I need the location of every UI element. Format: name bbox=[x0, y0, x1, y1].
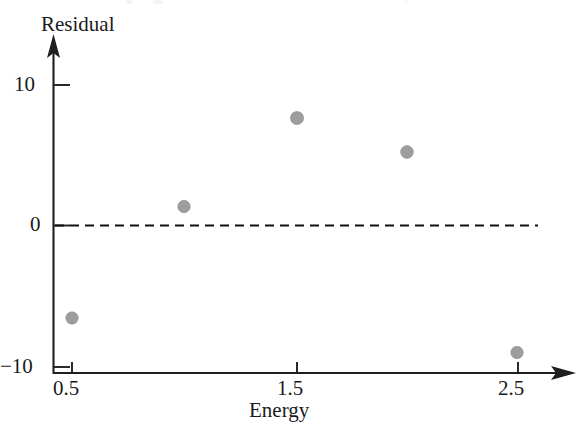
residual-plot: Residual Energy 10 0 −10 0.5 1.5 2.5 bbox=[0, 0, 584, 432]
x-axis-title: Energy bbox=[249, 400, 309, 421]
data-point bbox=[178, 200, 190, 212]
y-tick-label-0: 0 bbox=[30, 214, 41, 235]
y-tick-label-neg10: −10 bbox=[0, 356, 33, 377]
x-tick-label-0-5: 0.5 bbox=[53, 378, 79, 399]
data-point bbox=[511, 346, 523, 358]
y-tick-label-10: 10 bbox=[14, 74, 35, 95]
data-point bbox=[401, 146, 414, 159]
plot-canvas bbox=[0, 0, 584, 432]
x-tick-label-2-5: 2.5 bbox=[498, 378, 524, 399]
data-point bbox=[66, 312, 78, 324]
data-point bbox=[290, 111, 303, 124]
y-axis-title: Residual bbox=[41, 14, 115, 35]
x-tick-label-1-5: 1.5 bbox=[277, 378, 303, 399]
